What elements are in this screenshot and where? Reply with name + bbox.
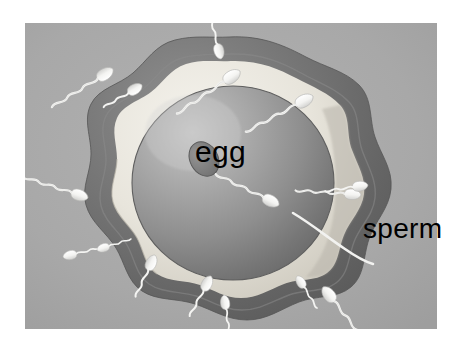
illustration-canvas [25,23,437,329]
label-egg: egg [195,137,246,167]
illustration-panel [25,23,437,329]
label-sperm: sperm [363,215,442,243]
fertilization-figure: egg sperm [0,0,462,351]
